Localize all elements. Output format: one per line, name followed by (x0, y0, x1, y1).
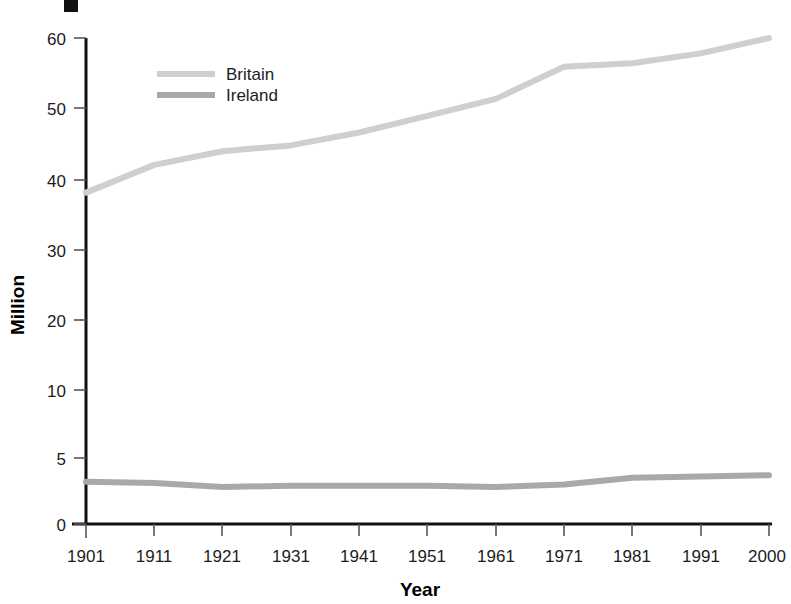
y-tick-label-20: 20 (47, 312, 66, 331)
legend-label-britain: Britain (226, 65, 274, 84)
x-tick-label-1991: 1991 (682, 547, 720, 566)
chart-figure: 60 50 40 30 20 10 5 0 1901 1911 1921 193… (0, 0, 791, 604)
x-tick-label-1901: 1901 (67, 547, 105, 566)
x-tick-label-1971: 1971 (545, 547, 583, 566)
y-axis-title: Million (7, 275, 28, 335)
x-tick-label-1961: 1961 (477, 547, 515, 566)
y-tick-label-40: 40 (47, 172, 66, 191)
y-tick-label-60: 60 (47, 30, 66, 49)
y-tick-label-0: 0 (57, 516, 66, 535)
series-line-britain (86, 38, 769, 193)
x-tick-label-1951: 1951 (408, 547, 446, 566)
legend-label-ireland: Ireland (226, 86, 278, 105)
x-tick-label-1941: 1941 (340, 547, 378, 566)
black-square-marker (64, 0, 78, 12)
y-tick-marks (74, 38, 86, 524)
x-tick-label-1931: 1931 (272, 547, 310, 566)
y-tick-label-5: 5 (57, 450, 66, 469)
y-tick-label-30: 30 (47, 242, 66, 261)
x-tick-label-1911: 1911 (136, 547, 173, 566)
line-chart: 60 50 40 30 20 10 5 0 1901 1911 1921 193… (0, 0, 791, 604)
y-tick-label-10: 10 (47, 382, 66, 401)
x-axis-title: Year (400, 579, 441, 600)
x-tick-label-1981: 1981 (613, 547, 651, 566)
y-tick-label-50: 50 (47, 100, 66, 119)
x-tick-label-1921: 1921 (203, 547, 241, 566)
x-tick-marks (86, 524, 769, 538)
x-tick-label-2000: 2000 (748, 547, 786, 566)
chart-legend: Britain Ireland (157, 65, 278, 105)
series-line-ireland (86, 475, 769, 487)
